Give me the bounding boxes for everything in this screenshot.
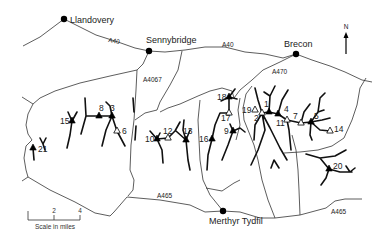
road-label: A4067: [143, 76, 162, 83]
site-marker: 4: [275, 104, 289, 116]
site-label: 2: [254, 113, 259, 123]
town-dot-icon: [146, 48, 152, 54]
site-marker: 5: [308, 111, 319, 124]
site-label: 9: [224, 126, 229, 136]
road-label: A40: [108, 36, 121, 45]
road-label: A470: [272, 68, 288, 75]
north-arrow: N: [344, 23, 349, 54]
site-label: 10: [145, 134, 155, 144]
site-marker: 15: [60, 116, 75, 126]
filled-triangle-icon: [30, 144, 37, 150]
site-label: 15: [60, 116, 70, 126]
site-marker: 13: [183, 126, 193, 142]
site-label: 20: [333, 161, 343, 171]
site-label: 13: [183, 126, 193, 136]
town-marker: Merthyr Tydfil: [209, 208, 263, 226]
site-label: 11: [276, 118, 285, 128]
site-label: 19: [242, 105, 252, 115]
town-marker: Llandovery: [61, 15, 115, 25]
site-label: 5: [314, 111, 319, 121]
filled-triangle-icon: [209, 135, 216, 141]
site-label: 4: [284, 104, 289, 114]
town-dot-icon: [220, 208, 226, 214]
town-label: Brecon: [284, 39, 313, 49]
site-label: 17: [221, 113, 231, 123]
site-marker: 21: [30, 144, 48, 154]
scale-tick-label: 4: [78, 207, 82, 214]
town-label: Sennybridge: [146, 35, 197, 45]
stream-network: [33, 86, 355, 185]
open-triangle-icon: [114, 127, 121, 133]
site-label: 7: [293, 111, 298, 121]
site-label: 21: [38, 144, 48, 154]
scale-tick-label: 2: [52, 207, 56, 214]
town-dot-icon: [61, 16, 67, 22]
scale-caption: Scale in miles: [35, 223, 76, 230]
town-dot-icon: [293, 51, 299, 57]
road-network: [22, 19, 372, 218]
site-marker: 20: [326, 161, 343, 171]
town-label: Merthyr Tydfil: [209, 216, 263, 226]
road-label: A465: [157, 192, 173, 199]
towns-layer: LlandoverySennybridgeBreconMerthyr Tydfi…: [61, 15, 313, 226]
site-label: 1: [264, 99, 269, 109]
site-label: 14: [334, 124, 344, 134]
town-label: Llandovery: [70, 15, 115, 25]
road-label: A40: [222, 41, 234, 48]
site-marker: 14: [327, 124, 344, 134]
site-label: 8: [99, 103, 104, 113]
site-label: 3: [110, 103, 115, 113]
site-marker: 3: [109, 103, 116, 118]
scale-bar: Scale in miles 24: [28, 207, 82, 230]
site-label: 18: [217, 92, 227, 102]
road-label: A465: [331, 208, 347, 215]
north-arrow-label: N: [344, 23, 349, 30]
site-label: 16: [199, 134, 209, 144]
town-marker: Brecon: [284, 39, 313, 57]
site-marker: 18: [217, 92, 232, 102]
open-triangle-icon: [252, 106, 259, 112]
site-label: 6: [122, 126, 127, 136]
site-marker: 9: [224, 126, 236, 136]
site-marker: 17: [221, 109, 232, 123]
map-canvas: LlandoverySennybridgeBreconMerthyr Tydfi…: [0, 0, 380, 241]
site-label: 12: [163, 126, 173, 136]
